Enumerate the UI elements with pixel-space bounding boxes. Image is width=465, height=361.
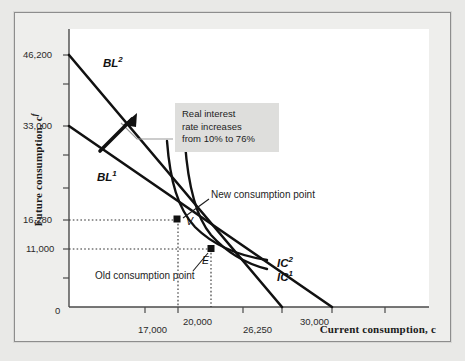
interest-rate-callout: Real interest rate increases from 10% to… xyxy=(175,103,279,152)
x-tick-label-20000: 20,000 xyxy=(183,316,212,327)
point-marker-v xyxy=(174,216,181,223)
x-tick-label-30000: 30,000 xyxy=(300,316,329,327)
chart-panel: Future consumption, cf Current consumpti… xyxy=(14,12,451,342)
point-label-e: E xyxy=(202,254,209,266)
origin-label: 0 xyxy=(55,305,60,316)
x-tick-label-26250: 26,250 xyxy=(243,324,272,335)
y-axis-title: Future consumption, cf xyxy=(30,85,44,255)
annotation-new-consumption-point: New consumption point xyxy=(211,189,315,200)
y-tick-label-46200: 46,200 xyxy=(23,49,52,60)
callout-line-2: rate increases xyxy=(182,121,273,134)
point-label-v: V xyxy=(186,215,193,227)
plot-background xyxy=(69,29,429,307)
series-label-bl2: BL2 xyxy=(103,55,123,69)
x-axis-title: Current consumption, c xyxy=(320,323,436,335)
x-tick-label-17000: 17,000 xyxy=(138,324,167,335)
y-axis-ticks xyxy=(63,55,69,278)
y-tick-label-11000: 11,000 xyxy=(26,243,54,254)
y-tick-label-16280: 16,280 xyxy=(23,214,52,225)
figure-container: Future consumption, cf Current consumpti… xyxy=(0,0,465,361)
x-axis-ticks xyxy=(145,307,385,313)
series-label-bl1: BL1 xyxy=(97,169,117,183)
series-label-ic2: IC2 xyxy=(277,255,293,269)
point-marker-e xyxy=(208,245,215,252)
y-tick-label-33000: 33,000 xyxy=(23,120,52,131)
callout-line-1: Real interest xyxy=(182,108,273,121)
annotation-old-consumption-point: Old consumption point xyxy=(95,270,195,281)
series-label-ic1: IC1 xyxy=(277,269,293,283)
callout-line-3: from 10% to 76% xyxy=(182,133,273,146)
chart-plot-area xyxy=(15,13,450,341)
